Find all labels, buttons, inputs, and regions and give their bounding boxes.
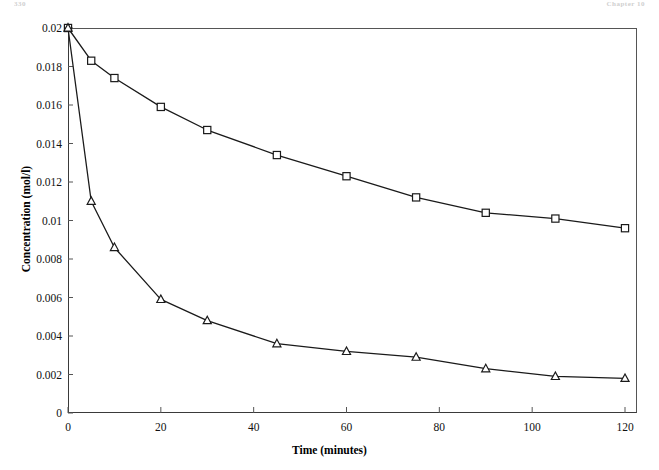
x-tick-label: 60 [322, 421, 372, 433]
x-axis-tick-labels: 020406080100120 [0, 421, 659, 437]
y-tick-label: 0.008 [2, 253, 62, 265]
y-tick-label: 0.01 [2, 215, 62, 227]
x-tick-label: 120 [600, 421, 650, 433]
x-tick-label: 0 [43, 421, 93, 433]
y-tick-label: 0.018 [2, 61, 62, 73]
concentration-vs-time-chart: 00.0020.0040.0060.0080.010.0120.0140.016… [0, 0, 659, 470]
y-tick-label: 0 [2, 407, 62, 419]
x-tick-label: 80 [414, 421, 464, 433]
y-tick-label: 0.006 [2, 292, 62, 304]
plot-area-frame [68, 28, 637, 413]
x-tick-label: 20 [136, 421, 186, 433]
y-tick-label: 0.02 [2, 22, 62, 34]
y-tick-label: 0.004 [2, 330, 62, 342]
y-tick-label: 0.016 [2, 99, 62, 111]
y-tick-label: 0.002 [2, 369, 62, 381]
x-axis-title: Time (minutes) [0, 444, 659, 456]
x-tick-label: 100 [507, 421, 557, 433]
y-tick-label: 0.012 [2, 176, 62, 188]
y-tick-label: 0.014 [2, 138, 62, 150]
y-axis-title: Concentration (mol/l) [20, 109, 32, 329]
x-tick-label: 40 [229, 421, 279, 433]
